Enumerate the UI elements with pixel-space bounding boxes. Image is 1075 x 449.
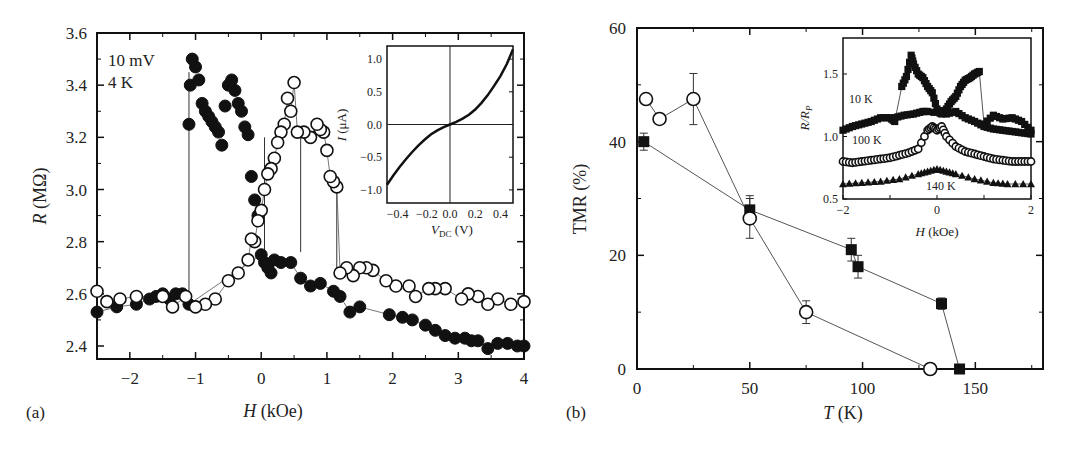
data-point-open xyxy=(403,280,415,292)
data-point-filled xyxy=(334,290,346,302)
inset-b-label-10k: 10 K xyxy=(849,92,873,106)
data-point-open xyxy=(262,168,274,180)
x-tick-label: 3 xyxy=(454,369,463,388)
y-tick-label: 2.6 xyxy=(66,285,87,304)
panel-b-x-axis-title: T (K) xyxy=(823,403,863,424)
data-point-filled xyxy=(383,309,395,321)
data-point-open xyxy=(291,126,303,138)
panel-a-temperature-annotation: 4 K xyxy=(108,73,134,92)
data-point-filled xyxy=(285,257,297,269)
data-point xyxy=(743,212,756,225)
y-tick-label: 20 xyxy=(609,246,626,265)
data-point-open xyxy=(167,301,179,313)
x-tick-label: 2 xyxy=(388,369,397,388)
data-point-open xyxy=(380,275,392,287)
data-point xyxy=(640,93,653,106)
panel-b-label: (b) xyxy=(566,403,586,422)
panel-a-x-axis-title: H (kOe) xyxy=(242,401,302,422)
data-point-open xyxy=(324,170,336,182)
y-tick-label: 3.2 xyxy=(66,128,87,147)
inset-data-point xyxy=(1027,158,1034,165)
data-point-filled xyxy=(219,100,231,112)
y-tick-label: 60 xyxy=(609,19,626,38)
x-tick-label: 100 xyxy=(850,379,876,398)
inset-data-point xyxy=(1027,130,1034,137)
inset-a-x-tick-label: 0.4 xyxy=(493,207,508,221)
data-point-open xyxy=(272,137,284,149)
x-tick-label: 0 xyxy=(633,379,642,398)
y-tick-label: 3.6 xyxy=(66,24,87,43)
data-point-filled xyxy=(229,84,241,96)
inset-b-x-tick-label: 2 xyxy=(1028,203,1034,217)
panel-a-y-axis-title: R (MΩ) xyxy=(30,168,51,226)
y-tick-label: 3.0 xyxy=(66,181,87,200)
x-tick-label: 1 xyxy=(323,369,332,388)
data-point xyxy=(924,363,937,376)
inset-data-point xyxy=(903,73,910,80)
data-point-open xyxy=(456,293,468,305)
inset-a-x-axis-title: VDC (V) xyxy=(431,222,473,239)
inset-data-point xyxy=(924,108,931,115)
x-tick-label: 4 xyxy=(520,369,529,388)
data-point-open xyxy=(91,285,103,297)
data-point-open xyxy=(157,290,169,302)
inset-data-point xyxy=(937,110,944,117)
x-tick-label: 50 xyxy=(741,379,758,398)
x-tick-label: 0 xyxy=(257,369,266,388)
data-point xyxy=(846,244,857,255)
x-tick-label: 150 xyxy=(963,379,989,398)
inset-a-y-tick-label: 0.5 xyxy=(367,85,382,99)
data-point-open xyxy=(180,290,192,302)
y-tick-label: 40 xyxy=(609,133,626,152)
data-point-filled xyxy=(236,105,248,117)
data-point-filled xyxy=(193,74,205,86)
data-point xyxy=(954,364,965,375)
data-point-open xyxy=(252,215,264,227)
data-point xyxy=(687,93,700,106)
data-point-open xyxy=(190,301,202,313)
inset-b-x-tick-label: −2 xyxy=(837,203,850,217)
data-point-filled xyxy=(518,340,530,352)
data-point-open xyxy=(282,92,294,104)
panel-a-label: (a) xyxy=(26,403,45,422)
data-point-open xyxy=(311,118,323,130)
data-point-filled xyxy=(406,314,418,326)
data-point-open xyxy=(285,105,297,117)
inset-b-y-tick-label: 1.0 xyxy=(823,130,838,144)
data-point-open xyxy=(114,293,126,305)
panel-a-inset-iv-curve: −0.4−0.20.00.20.41.00.50.0−0.5−1.0 VDC (… xyxy=(334,46,513,239)
panel-b-inset-magnetoresistance: −2020.51.01.5 10 K 100 K 140 K H (kOe) R… xyxy=(797,38,1035,239)
inset-b-y-tick-label: 0.5 xyxy=(823,192,838,206)
inset-b-label-140k: 140 K xyxy=(926,179,956,193)
data-point-open xyxy=(259,184,271,196)
inset-a-x-tick-label: 0.0 xyxy=(443,207,458,221)
data-point xyxy=(800,306,813,319)
data-point-open xyxy=(518,296,530,308)
y-tick-label: 2.8 xyxy=(66,233,87,252)
data-point-filled xyxy=(183,118,195,130)
inset-a-y-tick-label: −0.5 xyxy=(360,150,382,164)
inset-a-x-tick-label: −0.2 xyxy=(416,207,438,221)
inset-b-x-axis-title: H (kOe) xyxy=(915,224,959,239)
figure-canvas: −2−101234 2.42.62.83.03.23.43.6 10 mV 4 … xyxy=(0,0,1075,449)
data-point-open xyxy=(505,298,517,310)
inset-a-y-tick-label: 0.0 xyxy=(367,118,382,132)
data-point xyxy=(638,136,649,147)
data-point-filled xyxy=(245,170,257,182)
inset-data-point xyxy=(976,68,983,75)
data-point-filled xyxy=(472,335,484,347)
data-point xyxy=(936,298,947,309)
data-point-open xyxy=(242,254,254,266)
data-point-open xyxy=(423,283,435,295)
inset-a-y-tick-label: 1.0 xyxy=(367,52,382,66)
inset-b-x-tick-label: 0 xyxy=(934,203,940,217)
data-point xyxy=(653,112,666,125)
panel-a-voltage-annotation: 10 mV xyxy=(108,51,155,70)
y-tick-label: 2.4 xyxy=(66,337,88,356)
inset-b-y-axis-title: R/RP xyxy=(797,105,814,132)
data-point-filled xyxy=(314,277,326,289)
inset-a-x-tick-label: 0.2 xyxy=(468,207,483,221)
data-point-open xyxy=(222,275,234,287)
y-tick-label: 0 xyxy=(618,360,627,379)
data-point-filled xyxy=(295,272,307,284)
